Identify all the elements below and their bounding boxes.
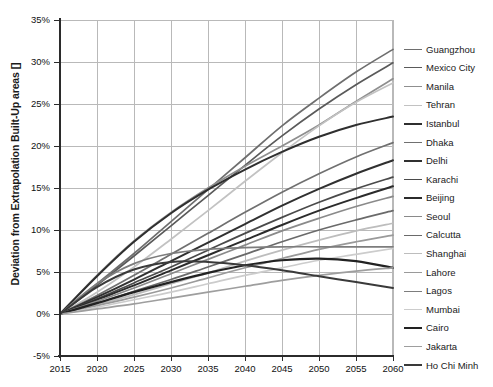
legend-item[interactable]: Shanghai [404,245,493,264]
x-tick [393,356,394,361]
legend-item[interactable]: Seoul [404,207,493,226]
legend-item[interactable]: Mexico City [404,59,493,78]
series-line [60,186,393,314]
series-line [60,248,393,314]
x-tick-label: 2015 [40,363,80,374]
legend-label: Calcutta [426,230,461,240]
legend-item[interactable]: Karachi [404,170,493,189]
legend-label: Shanghai [426,249,466,259]
legend-label: Mumbai [426,305,460,315]
legend-label: Lagos [426,286,452,296]
legend-swatch-line-icon [404,216,422,217]
series-line [60,196,393,314]
legend-item[interactable]: Ho Chi Minh [404,356,493,375]
legend-swatch-line-icon [404,49,422,50]
legend-swatch-line-icon [404,123,422,125]
y-tick [54,104,60,105]
x-tick-label: 2055 [336,363,376,374]
x-tick [208,356,209,361]
y-tick [54,314,60,315]
legend-label: Ho Chi Minh [426,361,478,371]
y-tick [54,230,60,231]
gridline-v [393,20,394,356]
legend-item[interactable]: Tehran [404,96,493,115]
y-tick-label: 5% [8,266,50,277]
x-tick [60,356,61,361]
y-tick [54,20,60,21]
series-lines [60,20,393,356]
y-tick-label: 25% [8,98,50,109]
legend-swatch-line-icon [404,253,422,254]
y-tick [54,188,60,189]
legend-label: Delhi [426,156,448,166]
legend-swatch-line-icon [404,272,422,273]
legend-swatch-line-icon [404,197,422,199]
legend-item[interactable]: Lagos [404,282,493,301]
y-tick-label: 30% [8,56,50,67]
x-tick [282,356,283,361]
chart-figure: Deviation from Extrapolation Built-Up ar… [0,0,493,387]
legend-item[interactable]: Dhaka [404,133,493,152]
legend-item[interactable]: Mumbai [404,300,493,319]
x-tick [356,356,357,361]
legend-item[interactable]: Delhi [404,152,493,171]
legend-label: Lahore [426,268,456,278]
legend-swatch-line-icon [404,67,422,68]
x-tick-label: 2030 [151,363,191,374]
x-tick [97,356,98,361]
legend-item[interactable]: Calcutta [404,226,493,245]
legend-item[interactable]: Manila [404,77,493,96]
legend-item[interactable]: Jakarta [404,338,493,357]
x-tick [319,356,320,361]
y-tick-label: 10% [8,224,50,235]
series-line [60,160,393,314]
y-tick-label: 35% [8,14,50,25]
legend-swatch-line-icon [404,179,422,180]
y-tick [54,62,60,63]
plot-area [60,20,393,356]
legend-swatch-line-icon [404,142,422,143]
y-tick-label: -5% [8,350,50,361]
legend-label: Karachi [426,175,458,185]
legend-label: Guangzhou [426,45,475,55]
legend-label: Seoul [426,212,450,222]
x-axis-line [58,355,394,357]
legend-swatch-line-icon [404,86,422,87]
legend-swatch-line-icon [404,327,422,329]
legend-item[interactable]: Cairo [404,319,493,338]
x-tick-label: 2040 [225,363,265,374]
series-line [60,143,393,314]
y-tick [54,272,60,273]
x-tick [134,356,135,361]
legend-label: Manila [426,82,454,92]
legend-item[interactable]: Lahore [404,263,493,282]
legend-label: Cairo [426,323,449,333]
legend-label: Istanbul [426,119,459,129]
legend-swatch-line-icon [404,291,422,292]
legend-swatch-line-icon [404,235,422,236]
y-tick-label: 20% [8,140,50,151]
legend-swatch-line-icon [404,364,422,366]
chart-legend: GuangzhouMexico CityManilaTehranIstanbul… [404,40,493,375]
x-tick-label: 2050 [299,363,339,374]
x-tick [171,356,172,361]
legend-label: Dhaka [426,138,453,148]
x-tick-label: 2020 [77,363,117,374]
legend-item[interactable]: Istanbul [404,114,493,133]
x-tick [245,356,246,361]
legend-label: Mexico City [426,63,475,73]
legend-swatch-line-icon [404,346,422,347]
legend-swatch-line-icon [404,105,422,106]
y-tick-label: 0% [8,308,50,319]
x-tick-label: 2025 [114,363,154,374]
legend-item[interactable]: Beijing [404,189,493,208]
series-line [60,177,393,314]
legend-label: Jakarta [426,342,457,352]
legend-swatch-line-icon [404,309,422,310]
legend-item[interactable]: Guangzhou [404,40,493,59]
x-tick-label: 2045 [262,363,302,374]
legend-label: Tehran [426,100,455,110]
y-tick-label: 15% [8,182,50,193]
legend-swatch-line-icon [404,160,422,162]
x-tick-label: 2035 [188,363,228,374]
